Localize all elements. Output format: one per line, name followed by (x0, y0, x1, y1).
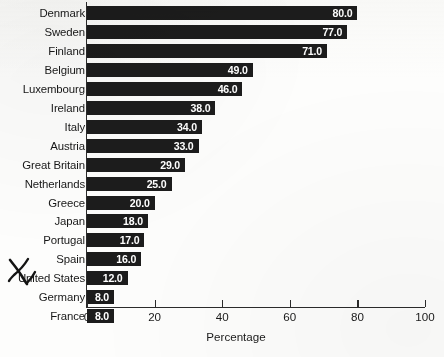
bar-row: Luxembourg46.0 (0, 80, 444, 99)
bar-value-label: 25.0 (87, 177, 167, 191)
category-label: Greece (48, 194, 85, 213)
category-label: Finland (48, 42, 85, 61)
bar-value-label: 49.0 (87, 63, 248, 77)
bar-row: Finland71.0 (0, 42, 444, 61)
x-axis-tick (87, 300, 88, 307)
category-label: Portugal (43, 231, 85, 250)
bar-value-label: 38.0 (87, 101, 210, 115)
bar-value-label: 12.0 (87, 271, 123, 285)
bar-row: United States12.0 (0, 269, 444, 288)
bar-value-label: 29.0 (87, 158, 180, 172)
bar-value-label: 8.0 (87, 309, 109, 323)
bar-value-label: 8.0 (87, 290, 109, 304)
x-axis-tick-label: 40 (216, 310, 229, 323)
category-label: Italy (65, 118, 85, 137)
bar-row: Greece20.0 (0, 194, 444, 213)
x-axis-tick-label: 80 (351, 310, 364, 323)
x-axis-tick-label: 20 (148, 310, 161, 323)
x-axis-tick-label: 0 (84, 310, 90, 323)
x-axis-tick (357, 300, 358, 307)
bar-row: Japan18.0 (0, 212, 444, 231)
category-label: Great Britain (22, 156, 85, 175)
bar-value-label: 77.0 (87, 25, 342, 39)
plot-area: Denmark80.0Sweden77.0Finland71.0Belgium4… (0, 0, 444, 311)
bar-value-label: 46.0 (87, 82, 237, 96)
category-label: Luxembourg (23, 80, 85, 99)
bar-row: Ireland38.0 (0, 99, 444, 118)
bar-row: Austria33.0 (0, 137, 444, 156)
bar-value-label: 71.0 (87, 44, 322, 58)
bar-value-label: 80.0 (87, 6, 352, 20)
bar-value-label: 18.0 (87, 214, 143, 228)
category-label: Denmark (39, 4, 85, 23)
bar-row: Spain16.0 (0, 250, 444, 269)
bar-chart: Denmark80.0Sweden77.0Finland71.0Belgium4… (0, 0, 444, 357)
bar-row: Great Britain29.0 (0, 156, 444, 175)
x-axis-tick (425, 300, 426, 307)
bar-value-label: 33.0 (87, 139, 194, 153)
bar-row: Sweden77.0 (0, 23, 444, 42)
x-axis-tick (222, 300, 223, 307)
category-label: Austria (50, 137, 85, 156)
x-axis-tick (290, 300, 291, 307)
category-label: France (50, 307, 85, 326)
category-label: Spain (56, 250, 85, 269)
bar-value-label: 20.0 (87, 196, 150, 210)
bar-value-label: 17.0 (87, 233, 139, 247)
category-label: United States (18, 269, 85, 288)
category-label: Japan (54, 212, 85, 231)
x-axis-line (86, 307, 425, 308)
bar-value-label: 16.0 (87, 252, 136, 266)
x-axis-tick (155, 300, 156, 307)
x-axis-tick-label: 60 (283, 310, 296, 323)
category-label: Sweden (44, 23, 85, 42)
category-label: Belgium (45, 61, 85, 80)
x-axis-title-text: Percentage (206, 330, 265, 343)
category-label: Germany (39, 288, 85, 307)
bar-row: Belgium49.0 (0, 61, 444, 80)
category-label: Netherlands (25, 175, 85, 194)
x-axis-title: Percentage (0, 330, 444, 343)
bar-row: Portugal17.0 (0, 231, 444, 250)
category-label: Ireland (51, 99, 85, 118)
bar-row: Denmark80.0 (0, 4, 444, 23)
bar-value-label: 34.0 (87, 120, 197, 134)
bar-row: Italy34.0 (0, 118, 444, 137)
x-axis-tick-label: 100 (415, 310, 434, 323)
bar-row: Netherlands25.0 (0, 175, 444, 194)
